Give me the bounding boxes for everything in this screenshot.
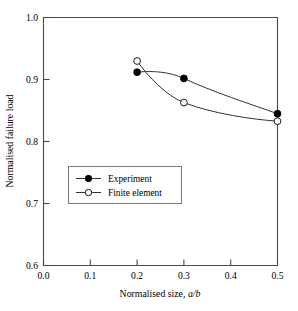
- data-point-marker: [134, 69, 141, 76]
- y-tick-label: 0.8: [26, 136, 38, 147]
- y-tick-label: 1.0: [26, 12, 38, 23]
- legend-label: Experiment: [108, 174, 152, 184]
- y-tick-label: 0.6: [26, 260, 38, 271]
- y-tick-label: 0.9: [26, 74, 38, 85]
- legend-label: Finite element: [108, 188, 162, 198]
- x-axis-title-italic: a/b: [188, 288, 201, 299]
- x-tick-label: 0.5: [272, 270, 284, 281]
- chart-legend: Experiment Finite element: [69, 167, 182, 204]
- x-tick-label: 0.4: [225, 270, 237, 281]
- x-axis-title-plain: Normalised size,: [120, 288, 188, 299]
- x-tick-label: 0.2: [131, 270, 143, 281]
- data-point-marker: [274, 110, 281, 117]
- data-point-marker: [181, 75, 188, 82]
- legend-marker-open-circle-icon: [85, 189, 91, 195]
- chart-figure: 0.6 0.7 0.8 0.9 1.0 0.0 0.1 0.2 0.3 0.4 …: [0, 0, 298, 311]
- legend-marker-filled-circle-icon: [85, 175, 91, 181]
- legend-box: [69, 167, 182, 204]
- x-axis-title: Normalised size, a/b: [120, 288, 201, 299]
- y-tick-label: 0.7: [26, 198, 38, 209]
- chart-svg: 0.6 0.7 0.8 0.9 1.0 0.0 0.1 0.2 0.3 0.4 …: [0, 0, 298, 311]
- data-point-marker: [274, 118, 281, 125]
- x-tick-label: 0.1: [84, 270, 96, 281]
- x-tick-label: 0.3: [178, 270, 190, 281]
- data-point-marker: [181, 99, 188, 106]
- chart-background: [0, 0, 298, 311]
- data-point-marker: [134, 58, 141, 65]
- x-tick-label: 0.0: [38, 270, 50, 281]
- y-axis-title: Normalised failure load: [4, 94, 15, 187]
